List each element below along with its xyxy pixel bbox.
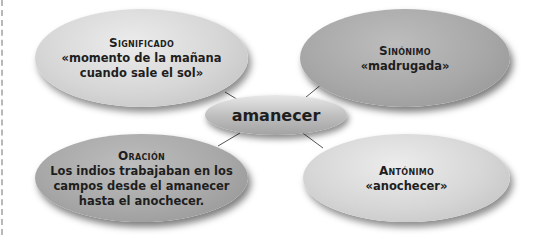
node-text-line: «madrugada» xyxy=(361,59,450,74)
node-text-line: «momento de la mañana xyxy=(61,51,221,66)
node-significado: Significado «momento de la mañana cuando… xyxy=(35,9,248,107)
node-text-line: cuando sale el sol» xyxy=(80,66,203,81)
node-text-line: hasta el anochecer. xyxy=(79,194,204,209)
node-text-line: Los indios trabajaban en los xyxy=(50,164,233,179)
node-text-line: campos desde el amanecer xyxy=(54,179,230,194)
node-heading: Antónimo xyxy=(379,163,434,179)
connector-oracion xyxy=(218,133,240,146)
node-sinonimo: Sinónimo «madrugada» xyxy=(300,9,510,107)
node-oracion: Oración Los indios trabajaban en los cam… xyxy=(35,134,248,222)
center-label: amanecer xyxy=(232,106,321,125)
connector-antonimo xyxy=(300,131,323,148)
node-heading: Sinónimo xyxy=(379,43,431,59)
node-antonimo: Antónimo «anochecer» xyxy=(303,134,510,222)
node-center: amanecer xyxy=(205,95,347,135)
node-heading: Oración xyxy=(118,148,165,164)
node-heading: Significado xyxy=(109,35,174,51)
node-text-line: «anochecer» xyxy=(366,179,448,194)
